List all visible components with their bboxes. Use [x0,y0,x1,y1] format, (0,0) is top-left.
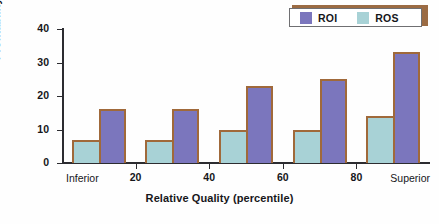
x-tick-label: 20 [130,171,142,183]
x-tick [356,164,357,169]
x-axis-endpoint-right: Superior [390,172,430,184]
bar-roi [393,52,420,163]
bar-group [145,29,199,163]
y-tick: 30 [57,63,62,64]
bar-ros [145,140,172,163]
y-tick: 0 [57,163,62,164]
chart-legend: ROI ROS [289,5,428,29]
x-tick [283,164,284,169]
legend-swatch-roi-icon [300,12,312,24]
bar-roi [320,79,347,163]
y-tick: 10 [57,130,62,131]
y-tick: 20 [57,96,62,97]
y-tick-label: 0 [43,156,49,168]
bar-group [219,29,273,163]
legend-box: ROI ROS [289,8,422,27]
x-tick-label: 60 [277,171,289,183]
bar-ros [366,116,393,163]
x-tick [209,164,210,169]
bar-ros [293,130,320,164]
y-axis-line [62,28,64,163]
x-tick-label: 80 [351,171,363,183]
bar-roi [246,86,273,163]
legend-label-ros: ROS [375,12,398,24]
bar-roi [99,109,126,163]
plot-area: 010203040 20406080 [62,29,430,163]
x-axis-endpoint-left: Inferior [66,172,99,184]
bar-ros [219,130,246,164]
legend-label-roi: ROI [318,12,337,24]
x-tick-label: 40 [203,171,215,183]
y-axis-title: Profitability (percentage) [0,0,2,60]
bar-group [293,29,347,163]
y-tick: 40 [57,29,62,30]
y-tick-label: 40 [37,22,49,34]
bar-group [72,29,126,163]
legend-item-roi: ROI [300,9,337,26]
x-axis-title: Relative Quality (percentile) [0,192,439,204]
y-tick-label: 10 [37,123,49,135]
y-tick-label: 30 [37,56,49,68]
bar-ros [72,140,99,163]
bar-chart: ROI ROS 010203040 20406080 Profitability… [0,0,439,224]
bar-roi [172,109,199,163]
x-tick [136,164,137,169]
legend-swatch-ros-icon [357,12,369,24]
y-tick-label: 20 [37,89,49,101]
legend-item-ros: ROS [357,9,398,26]
bar-group [366,29,420,163]
